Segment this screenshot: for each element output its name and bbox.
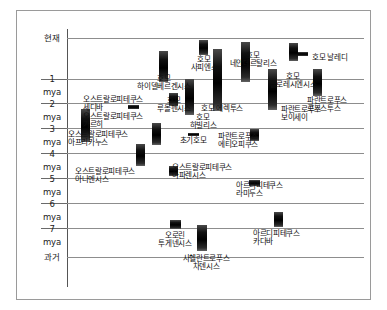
species-label-line1: 초기호모 (180, 136, 207, 145)
species-label-ar-kadabba: 아르디피테쿠스 카다바 (253, 230, 300, 247)
range-bar-homo-floresiensis[interactable] (289, 43, 298, 61)
species-label-homo-rudolfensis: 호모 루돌펜시스 (157, 97, 190, 114)
tick-label-4-unit: mya (37, 162, 67, 172)
species-label-line2: 네안데르탈리스 (230, 60, 277, 68)
tick-label-present: 현재 (37, 33, 67, 43)
species-label-homo-heidelbergensis: 호모 하이델베르겐시스 (137, 75, 190, 92)
species-label-line2: 하빌리스 (190, 122, 217, 130)
species-label-line2: 차덴시스 (183, 263, 230, 271)
species-label-au-garhi: 오스트랄로피테쿠스 가르히 (83, 113, 143, 130)
timeline-plot-area: 현재 1 mya 2 mya 3 mya 4 mya 5 mya 6 mya (17, 11, 370, 299)
tick-label-6: 6 (37, 199, 67, 209)
species-label-ar-ramidus: 아르디피테쿠스 라미두스 (236, 182, 283, 199)
range-bar-au-africanus[interactable] (152, 123, 161, 145)
species-label-line2: 아파렌시스 (172, 172, 232, 180)
gridline-4 (67, 153, 364, 154)
tick-label-5-unit: mya (37, 187, 67, 197)
tick-label-7: 7 (37, 224, 67, 234)
species-label-line2: 에티오피쿠스 (218, 141, 258, 149)
species-label-au-sediba: 오스트랄로피테쿠스 세디바 (83, 96, 143, 113)
species-label-early-homo: 초기호모 (180, 137, 207, 145)
tick-label-3-unit: mya (37, 137, 67, 147)
range-bar-ar-kadabba[interactable] (274, 212, 283, 227)
species-label-line2: 사피엔스 (191, 64, 218, 72)
species-label-line2: 루돌펜시스 (157, 105, 190, 113)
tick-label-5: 5 (37, 174, 67, 184)
species-label-homo-neanderthalensis: 호모 네안데르탈리스 (230, 52, 277, 69)
species-label-line2: 투게넨시스 (158, 240, 191, 248)
evolution-timeline-figure: 현재 1 mya 2 mya 3 mya 4 mya 5 mya 6 mya (16, 10, 371, 300)
species-label-line2: 아프리카누스 (68, 139, 128, 147)
species-label-au-anamensis: 오스트랄로피테쿠스 아나멘시스 (75, 168, 135, 185)
tick-label-4: 4 (37, 149, 67, 159)
species-label-pa-aethiopicus: 파란트로푸스 에티오피쿠스 (218, 133, 258, 150)
tick-label-1: 1 (37, 74, 67, 84)
range-bar-homo-sapiens[interactable] (199, 40, 208, 55)
species-label-homo-floresiensis: 호모 플로레시엔시스 (270, 73, 317, 90)
species-label-line2: 보이세이 (281, 114, 321, 122)
species-label-line2: 라미두스 (236, 190, 283, 198)
species-label-line1: 호모 날레디 (312, 53, 347, 62)
tick-label-2: 2 (37, 99, 67, 109)
species-label-orrorin-tugenensis: 오로린 투게넨시스 (158, 232, 191, 249)
tick-label-6-unit: mya (37, 212, 67, 222)
tick-label-3: 3 (37, 124, 67, 134)
species-label-homo-habilis: 호모 하빌리스 (190, 114, 217, 131)
species-label-line2: 플로레시엔시스 (270, 81, 317, 89)
range-bar-homo-naledi[interactable] (297, 52, 308, 56)
range-bar-au-afarensis[interactable] (136, 144, 145, 166)
species-label-line2: 하이델베르겐시스 (137, 83, 190, 91)
tick-label-2-unit: mya (37, 112, 67, 122)
species-label-homo-sapiens: 호모 사피엔스 (191, 56, 218, 73)
tick-label-past: 과거 (37, 252, 67, 262)
range-bar-sahelanthropus-tchadensis[interactable] (197, 225, 207, 251)
species-label-pa-boisei: 파란트로푸스 보이세이 (281, 106, 321, 123)
gridline-present (67, 38, 364, 39)
species-label-line2: 가르히 (83, 121, 143, 129)
gridline-7 (67, 228, 364, 229)
tick-label-7-unit: mya (37, 237, 67, 247)
species-label-sahelanthropus-tchadensis: 사헬란트로푸스 차덴시스 (183, 255, 230, 272)
species-label-line2: 카다바 (253, 238, 300, 246)
gridline-6 (67, 203, 364, 204)
y-axis-line (67, 29, 68, 287)
range-bar-orrorin-tugenensis[interactable] (170, 220, 181, 229)
species-label-homo-naledi: 호모 날레디 (312, 54, 347, 62)
species-label-line2: 아나멘시스 (75, 176, 135, 184)
species-label-au-africanus: 오스트랄로피테쿠스 아프리카누스 (68, 131, 128, 148)
tick-label-1-unit: mya (37, 87, 67, 97)
species-label-line1: 호모 에렉투스 (201, 104, 243, 113)
species-label-au-afarensis: 오스트랄로피테쿠스 아파렌시스 (172, 164, 232, 181)
